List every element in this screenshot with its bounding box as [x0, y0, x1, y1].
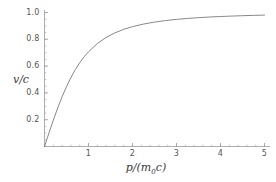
y-axis-title: v/c [4, 73, 38, 86]
x-axis-title-base: p/(m [126, 161, 151, 174]
x-ticks-group [45, 143, 265, 147]
data-curve-relativistic-velocity [45, 15, 265, 146]
x-tick-label: 2 [123, 149, 143, 158]
y-tick-label: 0.6 [17, 61, 40, 70]
x-tick-label: 1 [79, 149, 99, 158]
x-axis-title-tail: c) [156, 161, 166, 174]
y-tick-label: 0.2 [17, 115, 40, 124]
x-tick-label: 5 [255, 149, 275, 158]
x-tick-label: 3 [167, 149, 187, 158]
y-tick-label: 0.4 [17, 88, 40, 97]
y-tick-label: 1.0 [17, 8, 40, 17]
y-ticks-group [45, 13, 49, 147]
axes-group [44, 10, 270, 147]
chart-figure: 12345 0.20.40.60.81.0 v/c p/(m0c) [0, 0, 276, 182]
x-axis-title: p/(m0c) [96, 161, 196, 176]
y-tick-label: 0.8 [17, 34, 40, 43]
x-tick-label: 4 [211, 149, 231, 158]
